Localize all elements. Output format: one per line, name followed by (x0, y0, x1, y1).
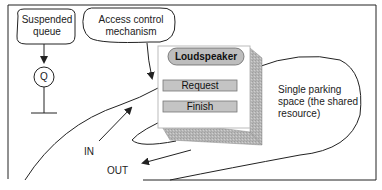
in-arrow (99, 108, 131, 141)
access-control-label: Access control mechanism (88, 14, 174, 38)
finish-button[interactable]: Finish (163, 101, 237, 112)
resource-line-1: Single parking (278, 84, 358, 96)
queue-symbol: Q (38, 71, 50, 83)
resource-line-2: space (the shared (278, 96, 358, 108)
suspended-queue-line-2: queue (18, 26, 76, 38)
out-label: OUT (107, 165, 128, 177)
in-label: IN (84, 146, 94, 158)
resource-line-3: resource) (278, 108, 358, 120)
suspended-queue-line-1: Suspended (18, 14, 76, 26)
access-control-line-2: mechanism (88, 26, 174, 38)
resource-label: Single parking space (the shared resourc… (278, 84, 358, 120)
loudspeaker-indicator: Loudspeaker (168, 50, 244, 63)
request-button[interactable]: Request (163, 80, 237, 91)
out-arrow (143, 150, 191, 163)
access-control-line-1: Access control (88, 14, 174, 26)
suspended-queue-label: Suspended queue (18, 14, 76, 38)
